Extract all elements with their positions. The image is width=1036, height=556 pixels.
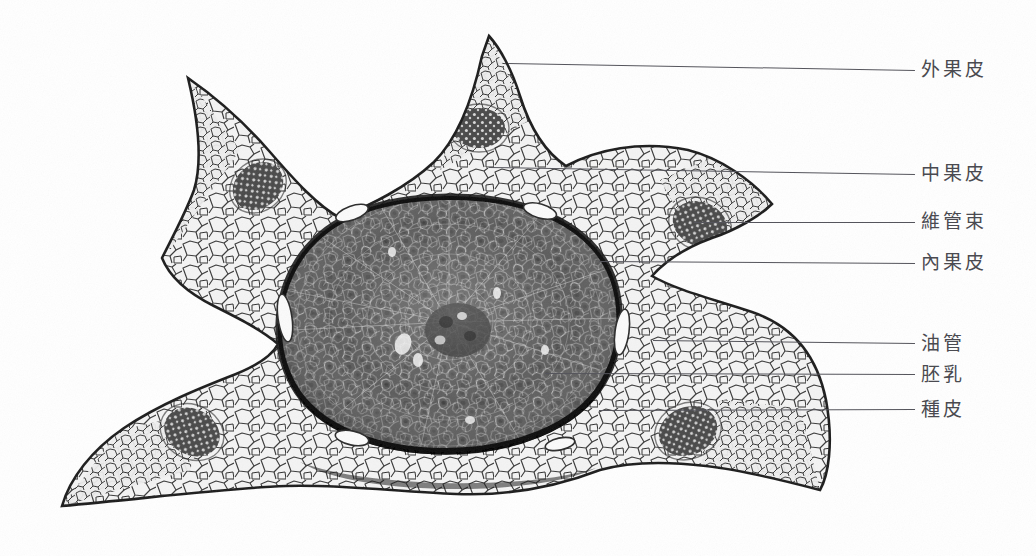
leader-line-vascular-bundle — [694, 222, 915, 223]
label-mesocarp: 中果皮 — [921, 162, 987, 184]
label-oil-tube: 油管 — [921, 332, 965, 354]
annotated-micrograph-figure: 外果皮中果皮維管束內果皮油管胚乳種皮 — [0, 0, 1036, 556]
label-seed-coat: 種皮 — [921, 398, 965, 420]
label-endocarp: 內果皮 — [921, 251, 987, 273]
label-vascular-bundle: 維管束 — [921, 210, 987, 232]
label-exocarp: 外果皮 — [921, 58, 987, 80]
specimen-micrograph-image — [0, 0, 1036, 556]
label-endosperm: 胚乳 — [921, 363, 965, 385]
